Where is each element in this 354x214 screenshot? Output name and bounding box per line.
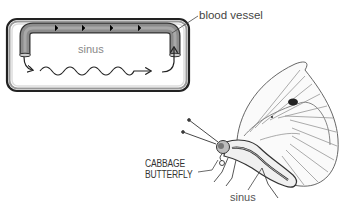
label-cabbage-butterfly: CABBAGE BUTTERFLY [145, 158, 192, 180]
label-species-line2: BUTTERFLY [145, 169, 192, 180]
label-blood-vessel: blood vessel [199, 9, 263, 21]
butterfly-leader-line [198, 160, 218, 172]
diagram-canvas [0, 0, 354, 214]
label-sinus-butterfly: sinus [230, 191, 256, 203]
label-sinus-schematic: sinus [78, 43, 104, 55]
sinus-leader-line [248, 168, 262, 190]
label-species-line1: CABBAGE [145, 158, 192, 169]
cabbage-butterfly-illustration [182, 62, 339, 198]
